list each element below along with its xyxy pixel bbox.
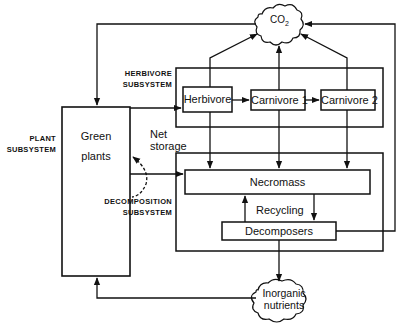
green-plants-label: Green plants [62, 126, 130, 166]
herbivore-subsystem-line1: HERBIVORE [110, 68, 172, 79]
net-storage-loop [132, 157, 147, 197]
nutrients-line1: Inorganic [256, 287, 312, 299]
recycling-label: Recycling [256, 204, 304, 216]
edge-carnivore2-to-co2 [301, 34, 347, 90]
decomposition-subsystem-line2: SUBSYSTEM [96, 207, 172, 218]
co2-label: CO2 [270, 14, 289, 27]
edge-nutrients-to-plants [97, 278, 256, 298]
herbivore-subsystem-label: HERBIVORE SUBSYSTEM [110, 68, 172, 90]
net-storage-line1: Net [150, 128, 187, 140]
herbivore-subsystem-line2: SUBSYSTEM [110, 79, 172, 90]
nutrients-label: Inorganic nutrients [256, 287, 312, 311]
co2-subscript: 2 [285, 20, 289, 27]
nutrients-line2: nutrients [256, 299, 312, 311]
decomposition-subsystem-label: DECOMPOSITION SUBSYSTEM [96, 196, 172, 218]
decomposition-subsystem-line1: DECOMPOSITION [96, 196, 172, 207]
carnivore2-label: Carnivore 2 [321, 94, 375, 106]
co2-main: CO [270, 14, 285, 25]
net-storage-label: Net storage [150, 128, 187, 152]
plant-subsystem-line2: SUBSYSTEM [0, 144, 56, 155]
plant-subsystem-label: PLANT SUBSYSTEM [0, 133, 56, 155]
diagram-canvas [0, 0, 403, 333]
necromass-label: Necromass [185, 176, 370, 188]
green-plants-line1: Green [62, 126, 130, 146]
herbivore-label: Herbivore [183, 93, 232, 105]
net-storage-line2: storage [150, 140, 187, 152]
carnivore1-label: Carnivore 1 [251, 94, 305, 106]
green-plants-line2: plants [62, 146, 130, 166]
plant-subsystem-line1: PLANT [0, 133, 56, 144]
edge-herbivore-to-co2 [210, 34, 257, 87]
decomposers-label: Decomposers [222, 225, 336, 237]
